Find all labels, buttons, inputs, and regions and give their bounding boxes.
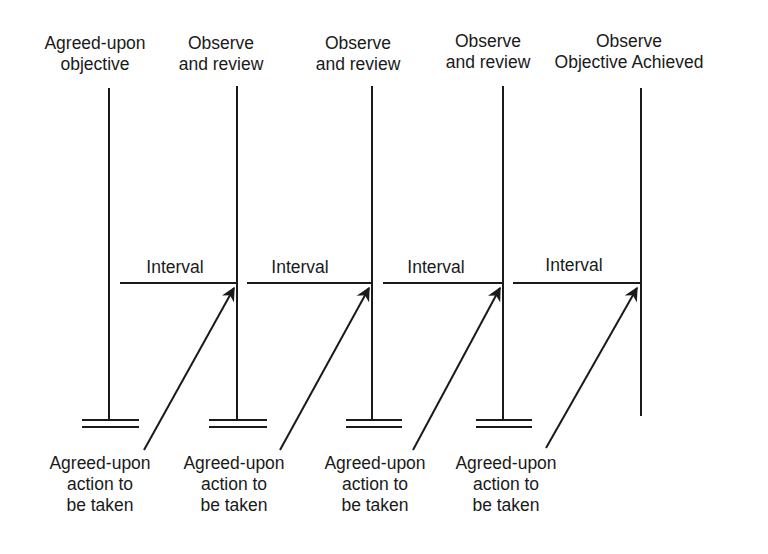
bottom-label-action-3: Agreed-upon action to be taken [324, 453, 425, 516]
top-label-achieved: Observe Objective Achieved [555, 31, 704, 73]
interval-label-3: Interval [407, 257, 464, 278]
interval-label-1: Interval [146, 257, 203, 278]
bottom-label-action-4: Agreed-upon action to be taken [455, 453, 556, 516]
top-label-review-1: Observe and review [179, 33, 264, 75]
action-arrow-1 [144, 288, 234, 450]
action-arrow-4 [546, 288, 637, 448]
bottom-label-action-2: Agreed-upon action to be taken [183, 453, 284, 516]
action-arrow-2 [280, 288, 369, 450]
top-label-review-2: Observe and review [316, 33, 401, 75]
top-label-review-3: Observe and review [446, 31, 531, 73]
top-label-objective: Agreed-upon objective [44, 33, 145, 75]
interval-label-2: Interval [271, 257, 328, 278]
interval-label-4: Interval [545, 255, 602, 276]
bottom-label-action-1: Agreed-upon action to be taken [49, 453, 150, 516]
action-arrow-3 [413, 288, 500, 450]
